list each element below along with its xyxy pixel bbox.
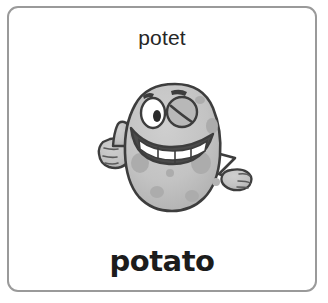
potato-body [125, 84, 220, 211]
potato-character-illustration [79, 70, 269, 230]
eye-white [141, 98, 165, 128]
target-word-label: potato [9, 244, 315, 278]
open-eye [141, 98, 165, 128]
spot [212, 178, 220, 186]
spot [185, 190, 199, 202]
winking-eye [167, 97, 197, 127]
pupil [153, 110, 161, 122]
spot [206, 118, 218, 134]
source-word-label: potet [9, 26, 315, 50]
spot [166, 169, 174, 177]
spot [195, 96, 205, 104]
spot [150, 186, 164, 198]
flashcard-frame: potet [7, 6, 317, 292]
